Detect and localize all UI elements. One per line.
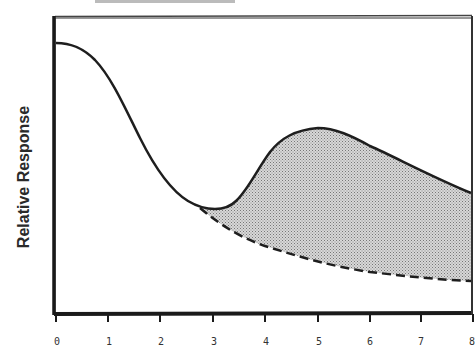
x-tick-label: 8 <box>469 336 475 347</box>
x-tick-label: 5 <box>316 336 322 347</box>
top-border <box>55 16 472 17</box>
x-tick-labels: 0 1 2 3 4 5 6 7 8 <box>54 336 475 347</box>
x-tick-label: 0 <box>54 336 60 347</box>
y-axis-label: Relative Response <box>15 87 33 267</box>
x-tick-label: 2 <box>158 336 164 347</box>
cropped-title-remnant <box>95 0 235 3</box>
x-axis <box>54 313 473 314</box>
chart: 0 1 2 3 4 5 6 7 8 <box>0 0 476 352</box>
shaded-area <box>200 128 471 281</box>
x-tick-label: 1 <box>106 336 112 347</box>
x-tick-label: 3 <box>211 336 217 347</box>
x-tick-label: 7 <box>418 336 424 347</box>
x-tick-label: 6 <box>367 336 373 347</box>
x-tick-label: 4 <box>263 336 269 347</box>
